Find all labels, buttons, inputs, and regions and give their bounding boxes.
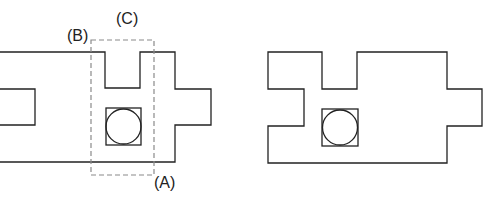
right-circle <box>323 110 358 145</box>
diagram-canvas: (C) (B) (A) <box>0 0 494 201</box>
right-outline <box>268 52 482 163</box>
left-circle <box>106 109 141 144</box>
label-b: (B) <box>67 27 88 44</box>
label-a: (A) <box>154 174 175 191</box>
left-inner-notch <box>0 89 35 125</box>
label-c: (C) <box>116 10 138 27</box>
right-figure <box>268 52 482 163</box>
left-figure: (C) (B) (A) <box>0 10 211 191</box>
